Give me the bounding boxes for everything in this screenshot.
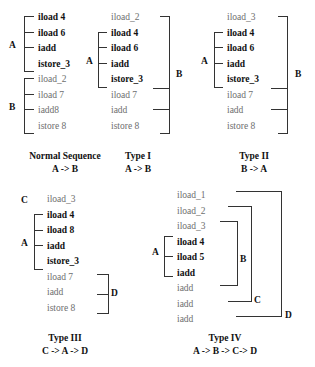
instruction-row: iload_1: [177, 188, 206, 204]
bracket-tick: [24, 47, 34, 48]
group-bracket-d: [236, 191, 282, 317]
bracket-tick: [271, 88, 288, 89]
instruction-row: iload 4: [47, 208, 79, 224]
instruction-row: iadd: [177, 266, 206, 282]
instruction-row: iload 7: [227, 88, 259, 104]
instruction-row: istore 8: [111, 119, 143, 135]
instruction-row: iload 6: [111, 41, 143, 57]
instruction-row: iload_2: [38, 72, 70, 88]
caption-subtitle: A -> B: [98, 163, 178, 176]
bracket-tick: [97, 294, 109, 295]
instruction-row: iload 6: [227, 41, 259, 57]
bracket-tick: [214, 47, 223, 48]
instruction-row: istore_3: [38, 57, 70, 73]
instruction-row: iadd: [47, 239, 79, 255]
group-label-d: D: [285, 311, 292, 321]
instruction-row: iload 7: [38, 88, 70, 104]
instruction-row: istore 8: [47, 301, 79, 317]
bracket-tick: [153, 88, 170, 89]
instruction-row: iload 4: [177, 235, 206, 251]
bracket-tick: [164, 256, 173, 257]
group-label-b: B: [295, 70, 301, 80]
bracket-tick: [24, 94, 34, 95]
diagram-caption: Type I A -> B: [98, 150, 178, 175]
group-label-b: B: [176, 70, 182, 80]
instruction-row: istore_3: [47, 254, 79, 270]
group-label-a: A: [9, 41, 16, 51]
instruction-row: iload 4: [38, 10, 70, 26]
bracket-tick: [24, 32, 34, 33]
instruction-row: iload 7: [47, 270, 79, 286]
instruction-row: iload_2: [177, 204, 206, 220]
instruction-row: istore_3: [111, 72, 143, 88]
diagram-caption: Type IV A -> B -> C-> D: [160, 332, 290, 357]
caption-title: Type IV: [160, 332, 290, 345]
instruction-row: iadd: [177, 297, 206, 313]
bracket-tick: [153, 109, 170, 110]
instruction-row: iadd: [227, 57, 259, 73]
bracket-tick: [34, 230, 43, 231]
instruction-list: iload_3 iload 4 iload 6 iadd istore_3 il…: [227, 10, 259, 134]
caption-subtitle: C -> A -> D: [20, 345, 110, 358]
group-label-a: A: [152, 248, 159, 258]
group-bracket-a: [34, 214, 43, 270]
instruction-list: iload_1 iload_2 iload_3 iload 4 iload 5 …: [177, 188, 206, 328]
instruction-row: iload_3: [227, 10, 259, 26]
instruction-row: iadd: [111, 103, 143, 119]
instruction-row: iload 6: [38, 26, 70, 42]
group-bracket-b: [24, 78, 34, 134]
group-bracket-a: [214, 32, 223, 88]
group-bracket-b: [278, 16, 288, 134]
bracket-tick: [271, 109, 288, 110]
group-bracket-b: [160, 16, 170, 134]
instruction-row: iload 5: [177, 250, 206, 266]
caption-subtitle: B -> A: [214, 163, 294, 176]
instruction-row: iadd: [227, 103, 259, 119]
instruction-row: iadd: [38, 41, 70, 57]
caption-title: Type II: [214, 150, 294, 163]
instruction-row: iload_3: [47, 192, 79, 208]
instruction-row: iadd8: [38, 103, 70, 119]
group-bracket-a: [98, 32, 107, 88]
bracket-tick: [214, 63, 223, 64]
instruction-row: iadd: [47, 285, 79, 301]
instruction-row: iload 7: [111, 88, 143, 104]
instruction-row: iload_2: [111, 10, 143, 26]
group-label-a: A: [201, 57, 208, 67]
group-label-c: C: [21, 196, 28, 206]
instruction-row: istore 8: [38, 119, 70, 135]
caption-title: Type I: [98, 150, 178, 163]
bracket-tick: [34, 245, 43, 246]
instruction-list: iload 4 iload 6 iadd istore_3 iload_2 il…: [38, 10, 70, 134]
bracket-tick: [24, 109, 34, 110]
instruction-row: iload 4: [227, 26, 259, 42]
caption-subtitle: A -> B -> C-> D: [160, 345, 290, 358]
group-label-b: B: [9, 103, 15, 113]
bracket-tick: [98, 47, 107, 48]
instruction-row: iload 8: [47, 223, 79, 239]
instruction-list: iload_3 iload 4 iload 8 iadd istore_3 il…: [47, 192, 79, 316]
group-label-a: A: [21, 239, 28, 249]
group-label-d: D: [111, 289, 118, 299]
instruction-row: istore_3: [227, 72, 259, 88]
group-label-a: A: [86, 57, 93, 67]
instruction-row: istore 8: [227, 119, 259, 135]
instruction-row: iload_3: [177, 219, 206, 235]
caption-title: Type III: [20, 332, 110, 345]
bracket-tick: [98, 63, 107, 64]
instruction-row: iadd: [177, 312, 206, 328]
group-bracket-a: [24, 16, 34, 72]
instruction-row: iload 4: [111, 26, 143, 42]
instruction-row: iadd: [111, 57, 143, 73]
instruction-row: iadd: [177, 281, 206, 297]
diagram-caption: Type II B -> A: [214, 150, 294, 175]
instruction-list: iload_2 iload 4 iload 6 iadd istore_3 il…: [111, 10, 143, 134]
diagram-caption: Type III C -> A -> D: [20, 332, 110, 357]
